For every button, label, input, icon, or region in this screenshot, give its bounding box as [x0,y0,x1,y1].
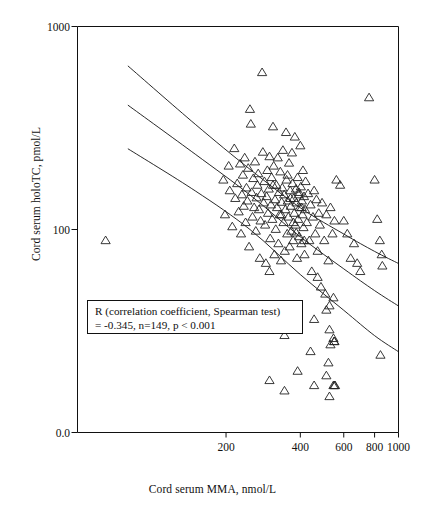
data-point-marker [293,173,302,181]
data-point-marker [281,128,290,136]
data-point-marker [375,236,384,244]
x-tick-label: 600 [335,441,352,453]
data-point-marker [279,218,288,226]
data-point-marker [286,186,295,194]
x-axis-title: Cord serum MMA, nmol/L [0,483,425,495]
data-point-marker [230,144,239,152]
data-point-marker [266,234,275,242]
annotation-line-1: R (correlation coefficient, Spearman tes… [95,304,302,318]
data-point-marker [224,162,233,170]
data-point-marker [321,290,330,298]
data-point-marker [311,229,320,237]
data-point-marker [265,267,274,275]
data-point-marker [306,200,315,208]
data-point-marker [219,175,228,183]
data-point-marker [234,207,243,215]
data-point-marker [298,166,307,174]
data-point-marker [310,315,319,323]
data-point-marker [249,174,258,182]
data-point-marker [300,250,309,258]
data-point-marker [278,146,287,154]
fit-line-upper-band [128,66,399,264]
data-point-marker [325,325,334,333]
data-point-marker [284,159,293,167]
data-point-marker [287,148,296,156]
data-point-marker [250,157,259,165]
tick-marks [72,27,399,438]
data-point-marker [248,212,257,220]
y-tick-label-origin: 0.0 [25,427,70,439]
data-point-marker [314,209,323,217]
data-point-marker [280,247,289,255]
x-tick-label: 800 [366,441,383,453]
data-point-marker [267,173,276,181]
data-point-marker [370,175,379,183]
data-point-marker [245,105,254,113]
data-point-marker [258,68,267,76]
data-point-marker [274,239,283,247]
data-point-marker [324,358,333,366]
data-point-marker [251,227,260,235]
data-point-marker [276,167,285,175]
data-point-marker [310,381,319,389]
data-point-marker [261,259,270,267]
data-point-marker [376,351,385,359]
annotation-line-2: = -0.345, n=149, p < 0.001 [95,318,302,332]
data-point-marker [310,186,319,194]
x-tick-label: 200 [217,441,234,453]
data-point-marker [313,273,322,281]
data-point-marker [356,267,365,275]
data-point-marker [228,222,237,230]
data-point-marker [302,218,311,226]
data-point-marker [325,392,334,400]
data-point-marker [265,376,274,384]
data-point-marker [244,242,253,250]
data-point-marker [293,367,302,375]
data-point-marker [307,267,316,275]
data-point-marker [101,236,110,244]
axis-frame [78,27,399,433]
data-point-marker [272,203,281,211]
data-point-marker [246,120,255,128]
figure-container: 200400600800100010010000.0 R (correlatio… [0,0,425,515]
data-point-marker [268,122,277,130]
data-point-marker [269,162,278,170]
data-point-marker [247,188,256,196]
x-tick-label: 400 [292,441,309,453]
data-point-marker [296,141,305,149]
data-point-marker [290,132,299,140]
data-point-marker [364,93,373,101]
y-tick-label: 1000 [25,21,70,33]
x-tick-label: 1000 [387,441,410,453]
statistics-annotation-box: R (correlation coefficient, Spearman tes… [87,300,303,334]
data-markers [101,68,387,400]
data-point-marker [346,254,355,262]
data-point-marker [255,254,264,262]
data-point-marker [378,261,387,269]
y-axis-title: Cord serum holoTC, pmol/L [30,127,42,261]
data-point-marker [339,216,348,224]
data-point-marker [306,347,315,355]
data-point-marker [236,229,245,237]
data-point-marker [326,203,335,211]
data-point-marker [240,153,249,161]
data-point-marker [373,215,382,223]
data-point-marker [322,371,331,379]
y-axis-title-wrap: Cord serum holoTC, pmol/L [26,74,44,314]
data-point-marker [328,229,337,237]
data-point-marker [225,186,234,194]
data-point-marker [258,148,267,156]
data-point-marker [280,386,289,394]
data-point-marker [296,182,305,190]
